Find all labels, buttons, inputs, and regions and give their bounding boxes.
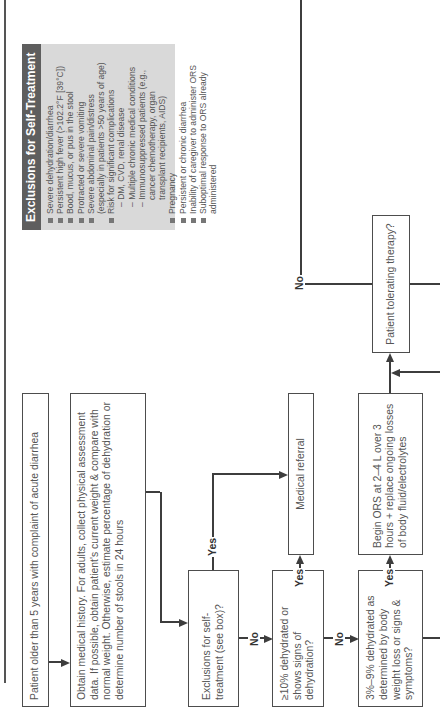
- node-medical-referral-text: Medical referral: [295, 438, 308, 510]
- connector: [160, 492, 162, 623]
- node-tolerating-question: Patient tolerating therapy?: [372, 215, 410, 353]
- exclusion-subitem-cont: cancer chemotherapy, organ: [147, 48, 157, 223]
- connector: [300, 0, 302, 285]
- label-no: No: [248, 631, 260, 647]
- label-no: No: [293, 275, 305, 291]
- label-yes: Yes: [293, 568, 305, 588]
- exclusion-item: Persistent or chronic diarrhea: [178, 48, 188, 223]
- node-moderate-dehydration-text: 3%–9% dehydrated as determined by body w…: [365, 577, 415, 700]
- exclusion-subitem: – Immunosuppressed patients (e.g.,: [137, 48, 147, 223]
- node-tolerating-text: Patient tolerating therapy?: [385, 223, 398, 344]
- node-begin-ors-text: Begin ORS at 2–4 L over 3 hours + replac…: [372, 400, 410, 548]
- exclusion-item-cont: administered: [208, 48, 218, 223]
- exclusion-item: Protracted or severe vomiting: [76, 48, 86, 223]
- connector: [389, 361, 391, 393]
- connector: [398, 371, 440, 373]
- exclusion-item-cont: (especially in patients >50 years of age…: [96, 48, 106, 223]
- connector: [410, 283, 440, 285]
- exclusion-item: Pregnancy: [167, 48, 177, 223]
- exclusion-subitem-cont: transplant recipients, AIDS): [157, 48, 167, 223]
- exclusion-item: Bood, mucus, or pus in the stool: [65, 48, 75, 223]
- arrow-down-icon: [350, 635, 359, 643]
- exclusion-item: Inability of caregiver to administer ORS: [188, 48, 198, 223]
- exclusion-item: Persistent high fever (>102.2°F [39°C]): [55, 48, 65, 223]
- node-start: Patient older than 5 years with complain…: [22, 393, 49, 707]
- arrow-right-icon: [386, 353, 394, 362]
- arrow-up-icon: [391, 369, 400, 377]
- node-exclusions-question-text: Exclusions for self-treatment (see box)?: [201, 577, 226, 700]
- top-rule: [4, 0, 6, 683]
- node-moderate-dehydration-question: 3%–9% dehydrated as determined by body w…: [358, 570, 423, 707]
- exclusion-item: Risk for significant complications: [106, 48, 116, 223]
- connector: [146, 491, 160, 493]
- exclusion-subitem: – Multiple chronic medical conditions: [127, 48, 137, 223]
- connector: [160, 621, 180, 623]
- exclusion-item: Suboptimal response to ORS already: [198, 48, 208, 223]
- label-yes: Yes: [383, 568, 395, 588]
- exclusions-list: Severe dehydration/diarrhea Persistent h…: [41, 44, 218, 230]
- exclusions-title: Exclusions for Self-Treatment: [22, 44, 41, 230]
- label-no: No: [333, 631, 345, 647]
- exclusions-panel: Exclusions for Self-Treatment Severe deh…: [22, 44, 175, 230]
- exclusion-item: Severe dehydration/diarrhea: [45, 48, 55, 223]
- exclusion-subitem: – DM, CVD, renal disease: [116, 48, 126, 223]
- arrow-down-icon: [279, 471, 288, 479]
- arrow-down-icon: [264, 635, 273, 643]
- connector: [423, 637, 440, 639]
- node-history-text: Obtain medical history. For adults, coll…: [76, 400, 126, 700]
- connector: [212, 473, 280, 475]
- node-begin-ors: Begin ORS at 2–4 L over 3 hours + replac…: [358, 393, 423, 555]
- arrow-down-icon: [179, 619, 188, 627]
- node-severe-dehydration-question: ≥10% dehydrated or shows signs of dehydr…: [272, 570, 324, 707]
- arrow-right-icon: [296, 555, 304, 564]
- node-medical-referral: Medical referral: [288, 393, 314, 555]
- node-start-text: Patient older than 5 years with complain…: [29, 432, 42, 700]
- node-exclusions-question: Exclusions for self-treatment (see box)?: [188, 570, 239, 707]
- arrow-down-icon: [61, 659, 70, 667]
- arrow-right-icon: [386, 555, 394, 564]
- label-yes: Yes: [206, 537, 218, 557]
- connector: [300, 283, 372, 285]
- exclusion-item: Severe abdominal pain/distress: [86, 48, 96, 223]
- node-history: Obtain medical history. For adults, coll…: [70, 393, 146, 707]
- flowchart-canvas: Exclusions for Self-Treatment Severe deh…: [0, 0, 440, 723]
- node-severe-dehydration-text: ≥10% dehydrated or shows signs of dehydr…: [279, 577, 317, 700]
